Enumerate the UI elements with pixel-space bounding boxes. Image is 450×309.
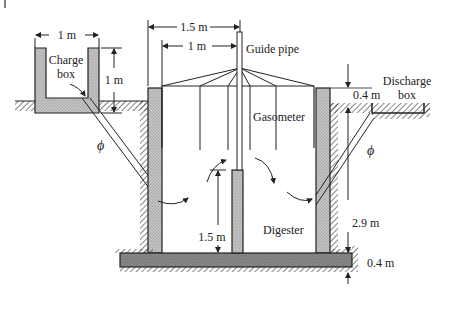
label-charge-height: 1 m bbox=[105, 73, 124, 87]
dim-digester-depth: 2.9 m bbox=[348, 108, 380, 252]
label-digester-radius: 1.5 m bbox=[180, 20, 208, 34]
label-guide-pipe: Guide pipe bbox=[246, 42, 299, 56]
label-charge-box: box bbox=[57, 67, 75, 81]
dim-charge-width: 1 m bbox=[35, 28, 99, 48]
dim-partition-height: 1.5 m bbox=[198, 170, 226, 252]
label-gasometer: Gasometer bbox=[253, 110, 305, 124]
label-base-thickness: 0.4 m bbox=[367, 256, 395, 270]
label-partition-height: 1.5 m bbox=[198, 230, 226, 244]
dim-gasometer-radius: 1 m bbox=[162, 39, 236, 86]
biogas-digester-diagram: 1 m 1 m 1.5 m 1 m Guide pipe Gasometer D… bbox=[0, 0, 450, 309]
charge-arrow bbox=[70, 84, 85, 96]
label-outlet-angle: ϕ bbox=[367, 143, 374, 158]
label-gasometer-radius: 1 m bbox=[188, 39, 207, 53]
label-charge: Charge bbox=[49, 53, 83, 67]
guide-pipe bbox=[237, 32, 242, 170]
ground-right bbox=[330, 103, 430, 253]
dim-discharge-offset: 0.4 m bbox=[330, 64, 381, 102]
ground-left bbox=[15, 101, 150, 253]
label-digester: Digester bbox=[263, 223, 304, 237]
label-discharge-box: box bbox=[398, 88, 416, 102]
label-discharge: Discharge bbox=[383, 74, 431, 88]
label-discharge-offset: 0.4 m bbox=[353, 88, 381, 102]
label-digester-depth: 2.9 m bbox=[352, 216, 380, 230]
label-charge-width: 1 m bbox=[58, 28, 77, 42]
digester-wall-left bbox=[148, 88, 162, 253]
digester-wall-right bbox=[316, 88, 330, 253]
label-inlet-angle: ϕ bbox=[97, 138, 104, 153]
partition-wall bbox=[232, 170, 243, 253]
